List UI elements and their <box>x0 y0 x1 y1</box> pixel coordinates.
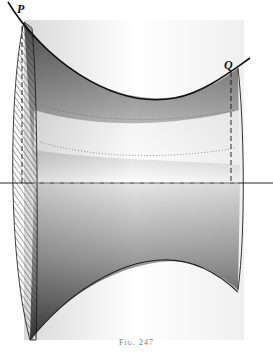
left-end-disk <box>13 22 37 340</box>
point-q-label: Q <box>224 58 233 73</box>
point-p-label: P <box>17 2 24 17</box>
surface-of-revolution-figure <box>0 0 273 354</box>
figure-caption: Fig. 247 <box>0 338 273 347</box>
